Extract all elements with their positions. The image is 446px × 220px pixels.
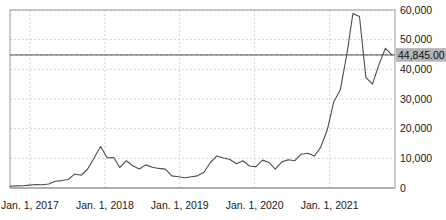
y-tick-label-60000: 60,000 <box>400 4 432 16</box>
x-tick-label-2021: Jan. 1, 2021 <box>301 199 359 211</box>
x-tick-label-2020: Jan. 1, 2020 <box>226 199 284 211</box>
y-tick-label-40000: 40,000 <box>400 63 432 75</box>
price-chart: 0 10,000 20,000 30,000 40,000 50,000 60,… <box>0 0 446 220</box>
x-axis-labels: Jan. 1, 2017 Jan. 1, 2018 Jan. 1, 2019 J… <box>1 199 359 211</box>
chart-canvas: 0 10,000 20,000 30,000 40,000 50,000 60,… <box>0 0 446 220</box>
x-tick-label-2019: Jan. 1, 2019 <box>151 199 209 211</box>
current-value-label: 44,845.00 <box>398 49 445 61</box>
y-tick-label-0: 0 <box>400 182 406 194</box>
y-tick-label-30000: 30,000 <box>400 93 432 105</box>
x-tick-label-2018: Jan. 1, 2018 <box>76 199 134 211</box>
y-tick-label-10000: 10,000 <box>400 152 432 164</box>
y-tick-label-50000: 50,000 <box>400 33 432 45</box>
y-tick-label-20000: 20,000 <box>400 122 432 134</box>
current-value-callout: 44,845.00 <box>396 48 446 62</box>
y-axis-labels: 0 10,000 20,000 30,000 40,000 50,000 60,… <box>400 4 432 194</box>
x-tick-label-2017: Jan. 1, 2017 <box>1 199 59 211</box>
